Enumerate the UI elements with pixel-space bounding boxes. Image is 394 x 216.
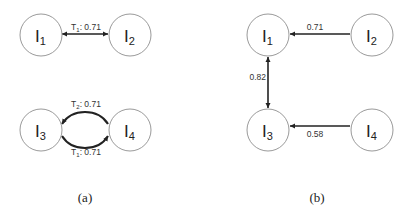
node-b-i2: I2 [351, 14, 393, 56]
edge-label-b-i3-i1: 0.82 [249, 72, 266, 82]
caption-b: (b) [309, 190, 324, 205]
diagram-canvas: T1: 0.71 T2: 0.71 T1: 0.71 I1 I2 I3 I4 (… [0, 0, 394, 216]
node-a-i2: I2 [109, 14, 151, 56]
edge-label-a-i1-i2: T1: 0.71 [71, 22, 101, 33]
node-b-i1: I1 [247, 14, 289, 56]
node-b-i3: I3 [247, 109, 289, 151]
panel-b: 0.71 0.82 0.58 I1 I2 I3 I4 (b) [247, 14, 393, 205]
node-a-i4: I4 [109, 109, 151, 151]
edge-label-b-i2-i1: 0.71 [307, 22, 324, 32]
node-a-i1: I1 [20, 14, 62, 56]
edge-label-a-bottom: T1: 0.71 [71, 147, 101, 158]
panel-a: T1: 0.71 T2: 0.71 T1: 0.71 I1 I2 I3 I4 (… [20, 14, 151, 205]
edge-label-a-top: T2: 0.71 [71, 99, 101, 110]
caption-a: (a) [78, 190, 92, 205]
node-b-i4: I4 [351, 109, 393, 151]
edge-label-b-i4-i3: 0.58 [307, 129, 324, 139]
edge-a-i3-i4-top [62, 112, 108, 124]
node-a-i3: I3 [20, 109, 62, 151]
